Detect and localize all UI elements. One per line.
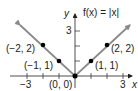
x-axis-label: x bbox=[131, 79, 138, 90]
chart: y f(x) = |x| 3 −3 3 x (−2, 2) (−1, 1) (0… bbox=[0, 0, 138, 91]
point-2-2 bbox=[105, 43, 110, 48]
y-axis-label: y bbox=[63, 8, 70, 19]
point-0-0 bbox=[73, 74, 78, 79]
y-tick-label-3: 3 bbox=[66, 25, 72, 36]
x-tick-label-3: 3 bbox=[120, 79, 126, 90]
point-label-neg2-2: (−2, 2) bbox=[6, 43, 35, 54]
point-label-0-0: (0, 0) bbox=[49, 79, 72, 90]
x-tick-label-neg3: −3 bbox=[20, 79, 32, 90]
point-neg2-2 bbox=[41, 43, 46, 48]
point-neg1-1 bbox=[57, 59, 62, 64]
chart-title: f(x) = |x| bbox=[83, 7, 119, 18]
point-1-1 bbox=[89, 59, 94, 64]
point-label-1-1: (1, 1) bbox=[95, 60, 118, 71]
point-label-2-2: (2, 2) bbox=[111, 43, 134, 54]
y-ticks bbox=[75, 31, 80, 61]
point-label-neg1-1: (−1, 1) bbox=[24, 60, 53, 71]
